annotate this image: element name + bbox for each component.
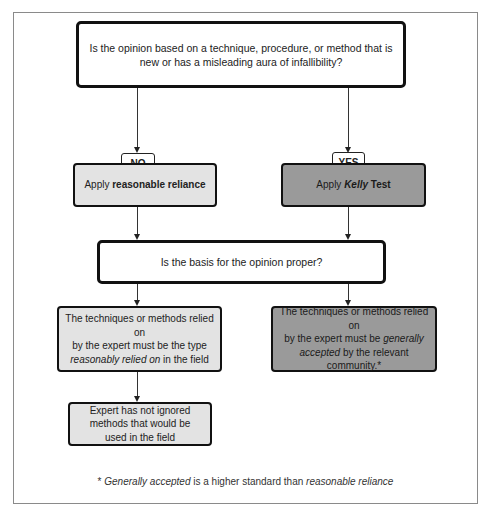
apply-left-prefix: Apply — [84, 179, 112, 190]
apply-kelly-test: Apply Kelly Test — [281, 163, 426, 207]
requirement-reasonably-relied-on: The techniques or methods relied on by t… — [57, 306, 222, 372]
expert-not-ignored-methods: Expert has not ignored methods that woul… — [68, 402, 212, 446]
connector-q2-right — [348, 284, 349, 301]
left-req-line1: The techniques or methods relied on — [65, 313, 213, 338]
connector-q2-left — [137, 284, 138, 301]
apply-right-suffix: Test — [368, 179, 391, 190]
left-followup-text: Expert has not ignored methods that woul… — [80, 404, 200, 445]
apply-right-kelly: Kelly — [344, 179, 368, 190]
footnote: * Generally accepted is a higher standar… — [13, 476, 478, 487]
footnote-middle: is a higher standard than — [190, 476, 306, 487]
right-req-suffix: by the relevant community.* — [327, 347, 409, 372]
question-1-text: Is the opinion based on a technique, pro… — [85, 41, 397, 69]
connector-q1-no — [137, 88, 138, 148]
apply-left-bold: reasonable reliance — [112, 179, 205, 190]
apply-right-prefix: Apply — [316, 179, 344, 190]
left-req-line2: by the expert must be the type — [72, 340, 207, 351]
apply-left-text: Apply reasonable reliance — [84, 178, 205, 192]
question-2-text: Is the basis for the opinion proper? — [161, 255, 323, 269]
apply-right-text: Apply Kelly Test — [316, 178, 390, 192]
requirement-generally-accepted: The techniques or methods relied on by t… — [271, 306, 437, 372]
right-requirement-text: The techniques or methods relied on by t… — [273, 305, 435, 373]
connector-left-expert — [137, 372, 138, 397]
right-req-line2: by the expert must be — [284, 333, 383, 344]
left-requirement-text: The techniques or methods relied on by t… — [59, 312, 220, 366]
connector-q1-yes — [348, 88, 349, 148]
connector-right-q2 — [348, 207, 349, 235]
connector-left-q2 — [137, 207, 138, 235]
left-req-suffix: in the field — [160, 354, 208, 365]
right-req-line1: The techniques or methods relied on — [280, 306, 428, 331]
apply-reasonable-reliance: Apply reasonable reliance — [73, 163, 217, 207]
question-new-technique: Is the opinion based on a technique, pro… — [76, 21, 406, 88]
footnote-italic-1: Generally accepted — [104, 476, 190, 487]
question-basis-proper: Is the basis for the opinion proper? — [97, 240, 386, 284]
footnote-italic-2: reasonable reliance — [306, 476, 393, 487]
left-req-italic: reasonably relied on — [70, 354, 160, 365]
